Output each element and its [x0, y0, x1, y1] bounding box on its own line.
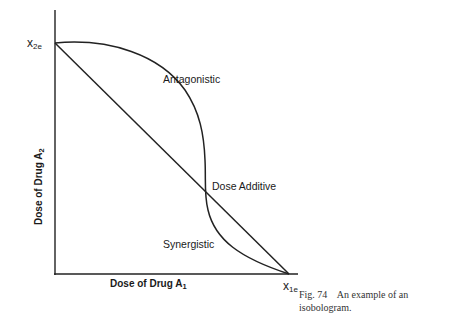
caption-line-1: Fig. 74 An example of an	[299, 288, 465, 301]
antagonistic-label: Antagonistic	[163, 73, 220, 85]
x1e-label: x1e	[283, 279, 298, 294]
synergistic-label: Synergistic	[163, 238, 214, 250]
x-axis-title: Dose of Drug A1	[110, 278, 187, 291]
caption-line-2: isobologram.	[299, 301, 465, 314]
dose-additive-label: Dose Additive	[212, 180, 276, 192]
figure-caption: Fig. 74 An example of an isobologram.	[299, 288, 465, 314]
x2e-label: x2e	[27, 36, 42, 51]
y-axis-title: Dose of Drug A2	[33, 148, 46, 225]
